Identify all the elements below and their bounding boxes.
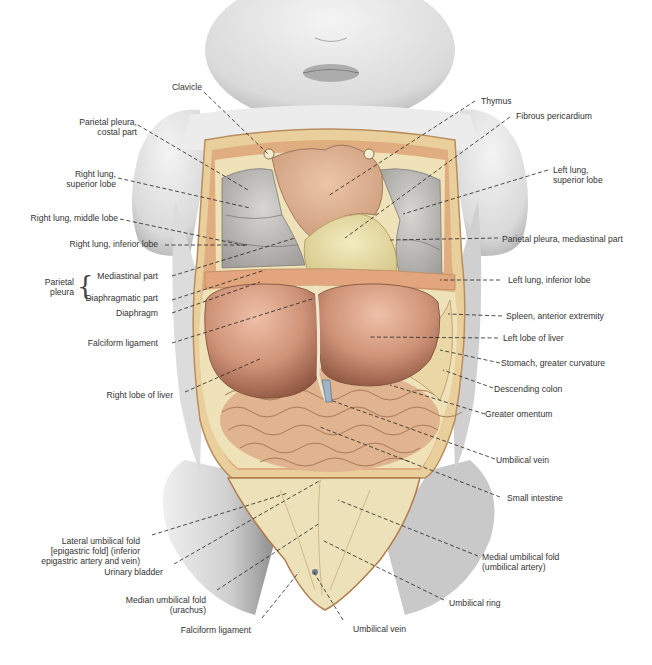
label-greater-omentum: Greater omentum: [485, 409, 552, 419]
label-descending-colon: Descending colon: [494, 384, 562, 394]
label-umbilical-vein-right: Umbilical vein: [496, 455, 549, 465]
label-right-lung-inferior: Right lung, inferior lobe: [70, 239, 158, 249]
label-left-lung-superior: Left lung, superior lobe: [553, 165, 603, 185]
label-right-lobe-liver: Right lobe of liver: [107, 390, 173, 400]
label-thymus: Thymus: [481, 96, 512, 106]
label-diaphragmatic-part: Diaphragmatic part: [85, 293, 158, 303]
thoracic-cavity: [215, 145, 445, 280]
label-spleen: Spleen, anterior extremity: [506, 311, 604, 321]
label-umbilical-vein-bottom: Umbilical vein: [353, 624, 406, 634]
abdominal-cavity: [199, 284, 462, 472]
label-parietal-pleura-costal: Parietal pleura, costal part: [79, 117, 137, 137]
label-clavicle: Clavicle: [172, 82, 202, 92]
label-right-lung-middle: Right lung, middle lobe: [31, 213, 118, 223]
label-left-lung-inferior: Left lung, inferior lobe: [508, 275, 591, 285]
label-fibrous-pericardium: Fibrous pericardium: [516, 111, 592, 121]
label-mediastinal-part: Mediastinal part: [97, 271, 158, 281]
label-parietal-pleura-group: Parietal pleura: [45, 277, 74, 297]
label-urinary-bladder: Urinary bladder: [104, 567, 163, 577]
label-falciform-ligament-upper: Falciform ligament: [88, 338, 158, 348]
label-diaphragm: Diaphragm: [116, 308, 158, 318]
label-small-intestine: Small intestine: [507, 493, 563, 503]
label-right-lung-superior: Right lung, superior lobe: [66, 169, 116, 189]
label-umbilical-ring: Umbilical ring: [449, 598, 501, 608]
label-median-umbilical-fold: Median umbilical fold (urachus): [126, 595, 206, 615]
label-parietal-pleura-mediastinal: Parietal pleura, mediastinal part: [502, 234, 623, 244]
label-medial-umbilical-fold: Medial umbilical fold (umbilical artery): [482, 552, 559, 572]
label-left-lobe-liver: Left lobe of liver: [503, 333, 564, 343]
anatomy-figure: Clavicle Parietal pleura, costal part Ri…: [0, 0, 652, 665]
label-stomach: Stomach, greater curvature: [501, 358, 605, 368]
label-lateral-umbilical-fold: Lateral umbilical fold [epigastric fold]…: [41, 536, 140, 567]
label-falciform-ligament-lower: Falciform ligament: [181, 625, 251, 635]
